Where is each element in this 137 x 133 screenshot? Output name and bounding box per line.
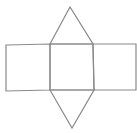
middle-square-face	[50, 44, 94, 90]
prism-net-diagram	[0, 0, 137, 133]
bottom-triangle-face	[50, 90, 94, 128]
top-triangle-face	[50, 7, 93, 44]
right-rectangle-face	[93, 44, 136, 90]
left-rectangle-face	[6, 44, 50, 91]
